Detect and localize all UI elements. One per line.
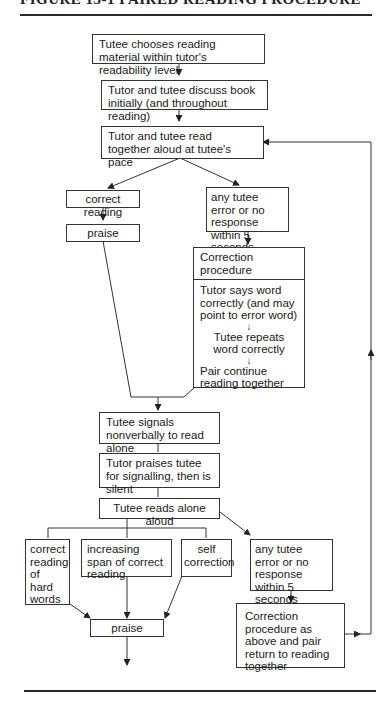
node-correction-2-text: Correction procedure as above and pair r… [245,610,329,672]
node-tutor-praises: Tutor praises tutee for signalling, then… [99,453,220,488]
node-praise-2-text: praise [111,622,142,634]
arrow-to-error-2 [220,512,250,535]
arrow-self-praise [165,576,182,618]
arrow-down-icon: ↓ [200,356,298,365]
node-praise-2: praise [90,619,164,637]
node-correct-reading-text: correct reading [84,193,122,218]
node-correction-2: Correction procedure as above and pair r… [236,603,345,668]
correction-step-1: Tutor says word correctly (and may point… [200,284,298,322]
line-praise-merge [103,241,177,397]
line-correction-merge [177,388,194,397]
node-hard-words-text: correct reading of hard words [30,543,68,605]
node-self-correction: self correction [181,539,232,577]
node-correction-procedure: Correction procedure Tutor says word cor… [193,247,305,388]
arrow-hard-praise [70,604,90,618]
correction-step-3: Pair continue reading together [200,365,298,390]
arrow-to-error-1 [180,158,239,185]
correction-heading: Correction procedure [194,248,304,280]
node-discuss-book: Tutor and tutee discuss book initially (… [101,80,268,110]
node-praise-1-text: praise [87,227,118,239]
node-error-2: any tutee error or no response within 5 … [250,539,333,591]
node-praise-1: praise [66,224,140,242]
node-increasing-span: increasing span of correct reading [81,539,172,577]
node-tutee-signals: Tutee signals nonverbally to read alone [99,412,220,444]
node-correct-reading: correct reading [66,190,140,208]
node-read-together: Tutor and tutee read together aloud at t… [101,126,264,159]
bottom-rule [24,690,376,692]
correction-step-2: Tutee repeats word correctly [200,331,298,356]
node-self-correction-text: self correction [184,543,235,568]
node-error-1: any tutee error or no response within 5 … [206,187,289,232]
arrow-down-icon: ↓ [200,322,298,331]
node-choose-material: Tutee chooses reading material within tu… [92,34,265,64]
node-increasing-span-text: increasing span of correct reading [87,543,163,580]
node-hard-words: correct reading of hard words [25,539,70,605]
node-read-alone: Tutee reads alone aloud [99,498,220,519]
